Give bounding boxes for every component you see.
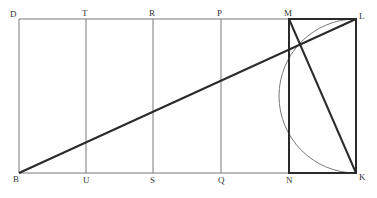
label-M: M — [284, 8, 292, 18]
label-D: D — [10, 9, 17, 19]
label-L: L — [359, 11, 365, 21]
semicircle-arc-LK — [279, 19, 356, 173]
label-Q: Q — [218, 175, 225, 185]
diagonal-BL — [19, 19, 356, 173]
geometry-diagram: D T R P M L B U S Q N K — [0, 0, 377, 198]
label-T: T — [82, 8, 88, 18]
label-P: P — [217, 8, 222, 18]
label-R: R — [149, 8, 155, 18]
thick-lines — [19, 19, 356, 173]
diagonal-MK — [289, 19, 356, 173]
label-U: U — [83, 175, 90, 185]
label-B: B — [13, 174, 19, 184]
label-N: N — [286, 175, 293, 185]
label-S: S — [150, 175, 155, 185]
label-K: K — [359, 172, 366, 182]
